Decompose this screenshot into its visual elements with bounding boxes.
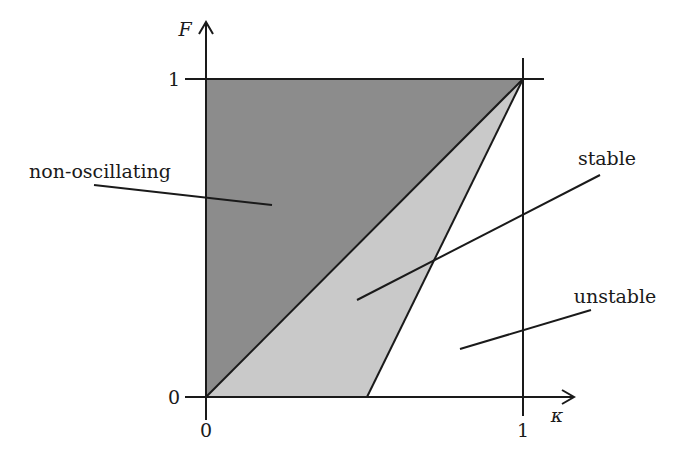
y-tick-1: 1 (168, 68, 180, 90)
pointer-unstable (460, 310, 591, 349)
label-unstable: unstable (574, 285, 657, 307)
x-tick-1: 1 (517, 419, 529, 441)
y-tick-0: 0 (168, 386, 180, 408)
stability-diagram: F κ 1 0 0 1 non-oscillating stable unsta… (0, 0, 687, 467)
x-axis-label: κ (550, 404, 564, 426)
label-stable: stable (578, 147, 636, 169)
x-tick-0: 0 (200, 419, 212, 441)
label-non-oscillating: non-oscillating (29, 160, 171, 182)
y-axis-label: F (177, 18, 192, 40)
